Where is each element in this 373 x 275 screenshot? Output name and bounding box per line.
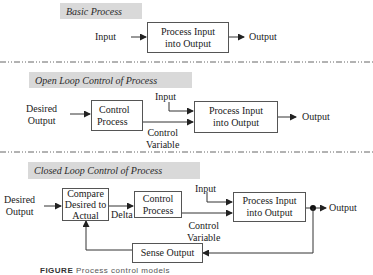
compare-box: Compare Desired to Actual [62,188,109,221]
closed-control-process-box: Control Process [134,191,182,218]
closed-input-label: Input [195,183,216,195]
open-process-box: Process Input into Output [194,101,278,133]
closed-loop-title: Closed Loop Control of Process [28,162,200,179]
figure-caption-text: Process control models [76,266,170,275]
closed-cv-line-1: Control [187,220,220,232]
open-control-variable-label: Control Variable [146,127,179,151]
basic-output-label: Output [249,31,277,43]
open-desired-line-1: Desired [26,103,57,115]
open-process-line-2: into Output [213,117,259,129]
open-process-line-1: Process Input [209,105,263,117]
compare-line-1: Compare [67,188,104,199]
open-control-process-box: Control Process [91,100,143,131]
compare-line-3: Actual [72,210,99,221]
basic-process-box: Process Input into Output [147,22,229,53]
closed-output-label: Output [329,202,357,214]
open-output-label: Output [302,111,330,123]
open-control-line-2: Process [97,116,128,128]
closed-process-box: Process Input into Output [233,192,306,222]
basic-input-label: Input [95,31,116,43]
compare-line-2: Desired to [65,199,106,210]
closed-control-line-1: Control [143,193,174,205]
closed-desired-line-2: Output [4,206,35,218]
delta-label: Delta [111,209,133,221]
open-cv-line-2: Variable [146,139,179,151]
closed-process-line-1: Process Input [242,195,296,207]
closed-control-line-2: Process [143,205,174,217]
basic-process-line-1: Process Input [161,26,215,38]
open-control-line-1: Control [97,104,130,116]
closed-control-variable-label: Control Variable [187,220,220,244]
closed-process-line-2: into Output [247,207,293,219]
closed-desired-line-1: Desired [4,194,35,206]
basic-process-title: Basic Process [60,3,142,19]
basic-process-line-2: into Output [165,38,211,50]
open-desired-line-2: Output [26,115,57,127]
open-loop-title: Open Loop Control of Process [29,72,192,88]
sense-output-box: Sense Output [132,243,203,263]
open-input-label: Input [155,91,176,103]
figure-label: FIGURE [40,266,73,275]
closed-desired-output-label: Desired Output [4,194,35,218]
open-cv-line-1: Control [146,127,179,139]
open-desired-output-label: Desired Output [26,103,57,127]
figure-caption: FIGURE Process control models [40,266,170,275]
